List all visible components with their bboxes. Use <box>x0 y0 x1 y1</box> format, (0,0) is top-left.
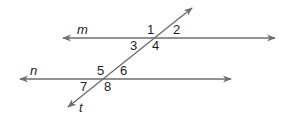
angle-4-label: 4 <box>152 38 159 53</box>
parallel-lines-transversal-diagram: m n t 1 2 3 4 5 6 7 8 <box>0 0 290 115</box>
angle-5-label: 5 <box>97 63 104 78</box>
line-m-label: m <box>77 22 88 37</box>
angle-1-label: 1 <box>147 22 154 37</box>
angle-6-label: 6 <box>120 63 127 78</box>
angle-8-label: 8 <box>104 79 111 94</box>
angle-2-label: 2 <box>173 22 180 37</box>
angle-7-label: 7 <box>80 79 87 94</box>
line-n-label: n <box>30 63 37 78</box>
angle-3-label: 3 <box>130 38 137 53</box>
transversal-t-label: t <box>79 100 84 115</box>
